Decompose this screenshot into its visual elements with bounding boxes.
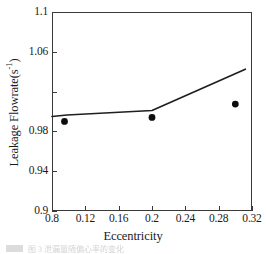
x-axis-tick-label: 0.2 bbox=[145, 213, 159, 225]
y-axis-title-superscript: -1 bbox=[4, 63, 14, 70]
x-axis-tick bbox=[252, 206, 253, 211]
y-axis-title-main: Leakage Flowrate(s bbox=[7, 69, 21, 166]
prediction-line bbox=[52, 69, 245, 116]
chart-data-layer bbox=[52, 12, 252, 211]
x-axis-tick-label: 0.24 bbox=[176, 213, 195, 225]
data-point-marker bbox=[149, 114, 156, 121]
data-point-marker bbox=[232, 101, 239, 108]
experimental-points bbox=[61, 101, 239, 125]
figure-caption-strip: 图 3 泄漏量随偏心率的变化 bbox=[6, 243, 156, 253]
data-point-marker bbox=[61, 118, 68, 125]
y-axis-title: Leakage Flowrate(s-1) bbox=[7, 13, 22, 213]
caption-marker-block bbox=[6, 245, 23, 252]
x-axis-title: Eccentricity bbox=[0, 229, 266, 244]
x-axis-tick-label: 0.32 bbox=[242, 213, 261, 225]
y-axis-title-suffix: ) bbox=[7, 58, 21, 62]
x-axis-tick-label: 0.16 bbox=[109, 213, 128, 225]
x-axis-tick-label: 0.8 bbox=[45, 213, 59, 225]
leakage-flowrate-chart: 1.11.060.980.940.90.80.120.160.20.240.28… bbox=[0, 0, 266, 254]
figure-caption-text: 图 3 泄漏量随偏心率的变化 bbox=[28, 243, 124, 253]
x-axis-tick-label: 0.12 bbox=[76, 213, 95, 225]
x-axis-tick-label: 0.28 bbox=[209, 213, 228, 225]
